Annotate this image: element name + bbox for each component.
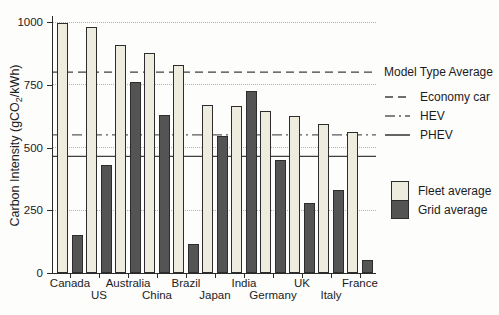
plot-area: 02505007501000CanadaUSAustraliaChinaBraz… — [0, 0, 499, 315]
legend-phev-label: PHEV — [420, 128, 453, 142]
legend-fleet-average-label: Fleet average — [418, 181, 491, 200]
bar-fleet-france — [347, 132, 358, 273]
carbon-intensity-chart: Carbon Intensity (gCO2/kWh) 025050075010… — [0, 0, 499, 315]
legend-bar-series: Fleet average Grid average — [391, 181, 491, 219]
x-label-italy: Italy — [299, 289, 363, 301]
legend-model-type-title: Model Type Average — [384, 65, 496, 79]
bar-fleet-china — [144, 53, 155, 273]
y-axis-line — [52, 16, 53, 274]
x-label-france: France — [328, 277, 392, 289]
bar-fleet-uk — [289, 116, 300, 273]
legend-item-phev: PHEV — [384, 125, 496, 144]
bar-fleet-india — [231, 106, 242, 273]
bar-grid-uk — [304, 203, 315, 273]
dashdot-line-icon — [384, 111, 411, 121]
bar-grid-japan — [217, 136, 228, 273]
x-label-australia: Australia — [96, 277, 160, 289]
bar-grid-us — [101, 165, 112, 273]
x-label-brazil: Brazil — [154, 277, 218, 289]
legend-swatches — [391, 181, 409, 219]
bar-grid-canada — [72, 235, 83, 273]
dashed-line-icon — [384, 92, 411, 102]
legend-grid-average-label: Grid average — [418, 200, 491, 219]
legend-item-hev: HEV — [384, 106, 496, 125]
bar-fleet-italy — [318, 124, 329, 273]
x-axis-line — [52, 273, 376, 274]
y-tick-label-250: 250 — [9, 204, 43, 216]
y-tick-label-500: 500 — [9, 142, 43, 154]
bar-fleet-us — [86, 27, 97, 273]
bar-fleet-canada — [57, 23, 68, 273]
x-label-china: China — [125, 289, 189, 301]
bar-fleet-germany — [260, 111, 271, 273]
legend-model-type-average: Model Type Average Economy car HEV PHEV — [384, 65, 496, 144]
solid-line-icon — [384, 130, 411, 140]
legend-hev-label: HEV — [420, 109, 445, 123]
x-label-us: US — [67, 289, 131, 301]
y-tick-label-1000: 1000 — [9, 16, 43, 28]
legend-item-economy-car: Economy car — [384, 87, 496, 106]
bar-grid-france — [362, 260, 373, 273]
fleet-average-swatch-icon — [391, 181, 409, 200]
bar-grid-germany — [275, 160, 286, 273]
bar-grid-italy — [333, 190, 344, 273]
x-label-uk: UK — [270, 277, 334, 289]
y-tick-label-750: 750 — [9, 79, 43, 91]
bar-grid-brazil — [188, 244, 199, 273]
bar-fleet-japan — [202, 105, 213, 273]
x-label-india: India — [212, 277, 276, 289]
bar-grid-china — [159, 115, 170, 273]
bar-grid-india — [246, 91, 257, 273]
x-label-japan: Japan — [183, 289, 247, 301]
x-label-canada: Canada — [38, 277, 102, 289]
bar-grid-australia — [130, 82, 141, 273]
bar-fleet-brazil — [173, 65, 184, 273]
x-label-germany: Germany — [241, 289, 305, 301]
legend-economy-car-label: Economy car — [420, 90, 490, 104]
grid-average-swatch-icon — [391, 200, 409, 219]
bar-fleet-australia — [115, 45, 126, 273]
